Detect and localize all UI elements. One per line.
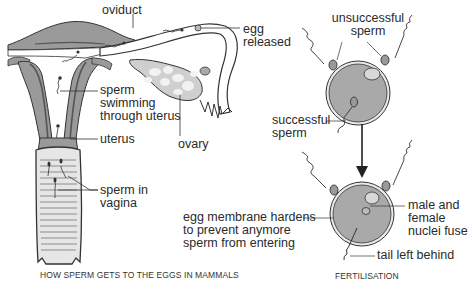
caption-right: FERTILISATION: [335, 271, 399, 281]
label-nuclei-line3: nuclei fuse: [408, 225, 468, 238]
label-sperm-vagina-line2: vagina: [100, 197, 137, 210]
fertilisation-illustration: [302, 15, 412, 260]
label-uterus: uterus: [100, 133, 135, 146]
label-successful-line2: sperm: [272, 127, 307, 140]
label-unsuccessful-line2: sperm: [322, 25, 414, 38]
caption-left: HOW SPERM GETS TO THE EGGS IN MAMMALS: [40, 270, 239, 280]
label-egg-released-line2: released: [243, 36, 291, 49]
label-membrane-line3: sperm from entering: [183, 237, 295, 250]
label-ovary: ovary: [178, 138, 209, 151]
label-tail-left-behind: tail left behind: [377, 249, 454, 262]
label-oviduct: oviduct: [102, 4, 142, 17]
label-sperm-uterus-line3: through uterus: [100, 110, 181, 123]
